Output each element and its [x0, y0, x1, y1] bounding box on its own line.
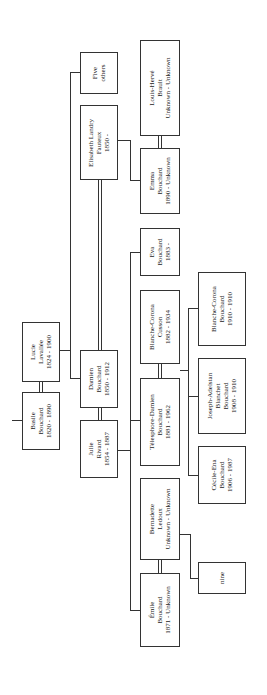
- person-telesphore-damien-bouchard[interactable]: Télesphore-Damien Bouchard 1881 - 1962: [140, 378, 180, 466]
- person-eva-bouchard[interactable]: Eva Bouchard 1883 -: [140, 228, 180, 276]
- person-dates: 1881 - 1962: [164, 394, 172, 450]
- person-julie-rivard[interactable]: Julie Rivard 1854 - 1887: [80, 420, 118, 478]
- connector: [70, 72, 80, 73]
- person-dates: 1883 -: [164, 238, 172, 265]
- person-surname: Bouchard: [156, 157, 164, 204]
- spouse-connector: [42, 382, 43, 392]
- person-name: Lucie: [29, 335, 37, 369]
- person-surname: Cusson: [156, 304, 164, 350]
- person-name: Télesphore-Damien: [148, 394, 156, 450]
- connector: [70, 378, 80, 379]
- person-name: Bernadette: [148, 488, 156, 549]
- group-label: others: [99, 64, 107, 81]
- person-name: Julie: [87, 432, 95, 466]
- person-surname: Bouchard: [156, 586, 164, 633]
- person-surname: Bouchard: [156, 238, 164, 265]
- person-blanche-corona-bouchard[interactable]: Blanche-Corona Bouchard 1910 - 1910: [198, 272, 246, 346]
- person-emile-bouchard[interactable]: Émile Bouchard 1871 - Unknown: [140, 573, 180, 647]
- person-surname: Bouchard: [218, 458, 226, 492]
- person-dates: 1820 - 1890: [45, 404, 53, 438]
- connector: [70, 72, 71, 378]
- five-others-node[interactable]: Five others: [80, 52, 118, 94]
- person-dates: 1850 -: [103, 118, 111, 166]
- nine-children-node[interactable]: nine: [198, 562, 246, 594]
- person-dates: 1850 - 1912: [103, 362, 111, 396]
- connector: [190, 534, 191, 578]
- person-name: Louis-Hervé: [148, 57, 156, 118]
- person-surname: Bouchard: [156, 394, 164, 450]
- person-name: Blanche-Corona: [210, 286, 218, 332]
- connector: [12, 420, 22, 421]
- connector: [188, 308, 189, 476]
- spouse-connector: [101, 180, 102, 350]
- person-name: Basile: [29, 404, 37, 438]
- connector: [188, 396, 198, 397]
- person-surname: Ledoux: [156, 488, 164, 549]
- connector: [130, 252, 140, 253]
- connector: [180, 370, 188, 371]
- person-dates: 1890 - Unknown: [164, 157, 172, 204]
- connector: [130, 180, 140, 181]
- person-blanche-corona-cusson[interactable]: Blanche-Corona Cusson 1882 - 1934: [140, 290, 180, 364]
- spouse-connector: [98, 180, 99, 350]
- person-lucie-lavallee[interactable]: Lucie Lavallée 1824 - 1900: [22, 322, 60, 382]
- person-joseph-adelstan-blanchet-bouchard[interactable]: Joseph-Adelstan Blanchet Bouchard 1908 -…: [198, 358, 246, 434]
- person-dates: 1906 - 1987: [226, 458, 234, 492]
- person-dates: Unknown - Unknown: [164, 57, 172, 118]
- connector: [130, 252, 131, 610]
- connector: [60, 350, 70, 351]
- person-name: Joseph-Adelstan: [206, 373, 214, 419]
- person-name: Emma: [148, 157, 156, 204]
- person-surname: Fauteux: [95, 118, 103, 166]
- spouse-connector: [158, 136, 159, 148]
- group-label: Five: [91, 64, 99, 81]
- person-louis-herve-brault[interactable]: Louis-Hervé Brault Unknown - Unknown: [140, 40, 180, 136]
- spouse-connector: [158, 560, 159, 573]
- spouse-connector: [161, 136, 162, 148]
- person-emma-bouchard[interactable]: Emma Bouchard 1890 - Unknown: [140, 148, 180, 214]
- person-damien-bouchard[interactable]: Damien Bouchard 1850 - 1912: [80, 350, 118, 408]
- spouse-connector: [161, 560, 162, 573]
- person-bernadette-ledoux[interactable]: Bernadette Ledoux Unknown - Unknown: [140, 478, 180, 560]
- person-cecile-ena-bouchard[interactable]: Cécile-Ena Bouchard 1906 - 1987: [198, 446, 246, 504]
- person-dates: 1882 - 1934: [164, 304, 172, 350]
- connector: [188, 308, 198, 309]
- connector: [130, 610, 140, 611]
- person-surname: Rivard: [95, 432, 103, 466]
- person-dates: 1908 - 1910: [230, 373, 238, 419]
- person-name: Blanche-Corona: [148, 304, 156, 350]
- spouse-connector: [158, 364, 159, 378]
- group-label: nine: [218, 572, 226, 584]
- person-dates: 1854 - 1887: [103, 432, 111, 466]
- person-surname: Bouchard: [218, 286, 226, 332]
- person-elisabeth-landry-fauteux[interactable]: Elisabeth Landry Fauteux 1850 -: [80, 105, 118, 180]
- person-surname: Bouchard: [37, 404, 45, 438]
- spouse-connector: [161, 364, 162, 378]
- spouse-connector: [98, 408, 99, 420]
- connector: [180, 534, 190, 535]
- person-surname: Brault: [156, 57, 164, 118]
- connector: [130, 420, 140, 421]
- connector: [188, 475, 198, 476]
- person-middle-name: Blanchet: [214, 373, 222, 419]
- connector: [190, 578, 198, 579]
- person-dates: 1910 - 1910: [226, 286, 234, 332]
- person-surname: Bouchard: [222, 373, 230, 419]
- person-name: Émile: [148, 586, 156, 633]
- person-name: Cécile-Ena: [210, 458, 218, 492]
- connector: [118, 140, 130, 141]
- connector: [130, 140, 131, 180]
- person-dates: Unknown - Unknown: [164, 488, 172, 549]
- person-surname: Lavallée: [37, 335, 45, 369]
- person-surname: Bouchard: [95, 362, 103, 396]
- person-name: Elisabeth Landry: [87, 118, 95, 166]
- spouse-connector: [39, 382, 40, 392]
- spouse-connector: [101, 408, 102, 420]
- person-dates: 1824 - 1900: [45, 335, 53, 369]
- person-name: Eva: [148, 238, 156, 265]
- person-name: Damien: [87, 362, 95, 396]
- person-basile-bouchard[interactable]: Basile Bouchard 1820 - 1890: [22, 392, 60, 450]
- connector: [118, 450, 130, 451]
- person-dates: 1871 - Unknown: [164, 586, 172, 633]
